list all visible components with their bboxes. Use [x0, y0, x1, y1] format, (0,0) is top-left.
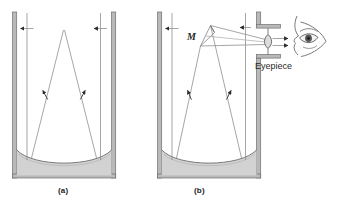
mirror-label-M: M — [187, 31, 196, 42]
converging-ray-left-b — [177, 46, 201, 158]
converging-ray-right-a — [65, 30, 97, 158]
figure-svg — [0, 0, 339, 210]
tube-wall-left-b — [158, 12, 162, 178]
observer-eye — [294, 16, 326, 57]
tube-wall-left-a — [13, 12, 17, 178]
reflected-ray-lower-b — [201, 45, 266, 47]
eyepiece-flange-top — [257, 25, 281, 29]
tube-wall-right-lower-b — [257, 58, 261, 178]
panel-caption-a: (a) — [58, 186, 68, 195]
incoming-ray-left-a — [21, 13, 34, 160]
incoming-ray-left-b — [166, 13, 179, 160]
converging-ray-left-a — [32, 30, 64, 158]
figure-root: M Eyepiece (a) (b) — [0, 0, 339, 210]
tube-wall-right-upper-b — [257, 12, 261, 26]
panel-caption-b: (b) — [194, 186, 205, 195]
incoming-ray-right-a — [94, 13, 107, 160]
secondary-mirror-M — [201, 26, 215, 47]
tube-wall-right-a — [112, 12, 116, 178]
panel-a — [13, 12, 116, 178]
eyepiece-label: Eyepiece — [255, 61, 292, 71]
liquid-mirror-a — [17, 150, 112, 176]
panel-b — [158, 12, 327, 178]
eyepiece-lens — [264, 35, 271, 49]
eyepiece-flange-bottom — [257, 55, 281, 59]
liquid-mirror-b — [162, 150, 257, 176]
